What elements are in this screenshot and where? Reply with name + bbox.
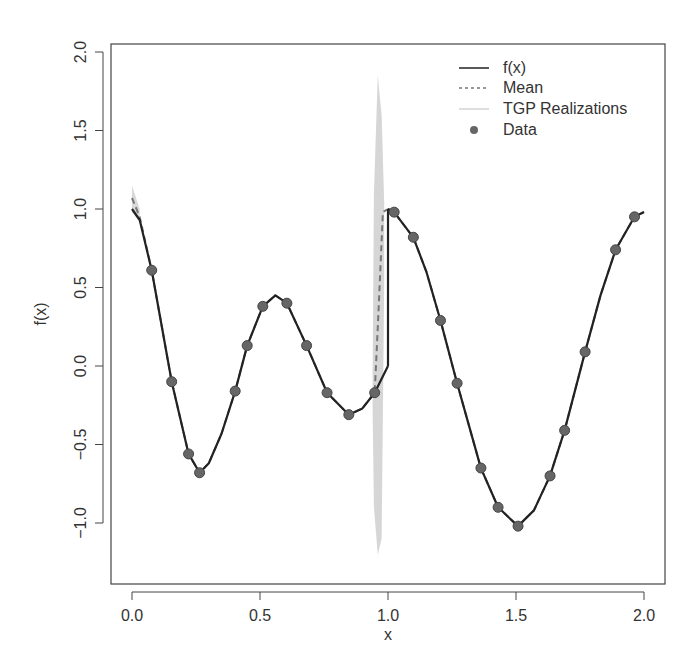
data-point: [452, 378, 462, 388]
data-point: [344, 410, 354, 420]
legend-label: TGP Realizations: [503, 100, 627, 117]
x-tick-label: 0.5: [249, 607, 271, 624]
x-axis-title: x: [384, 626, 392, 643]
chart-background: [0, 0, 695, 647]
x-tick-label: 1.0: [377, 607, 399, 624]
data-point: [435, 315, 445, 325]
data-point: [408, 232, 418, 242]
data-point: [545, 471, 555, 481]
data-point: [242, 341, 252, 351]
data-point: [476, 463, 486, 473]
data-point: [560, 425, 570, 435]
data-point: [493, 502, 503, 512]
data-point: [258, 301, 268, 311]
y-tick-label: 0.0: [72, 355, 89, 377]
data-point: [184, 449, 194, 459]
legend-label: f(x): [503, 59, 526, 76]
data-point: [230, 386, 240, 396]
data-point: [147, 265, 157, 275]
data-point: [302, 341, 312, 351]
tgp-chart: 0.00.51.01.52.0 −1.0−0.50.00.51.01.52.0 …: [0, 0, 695, 647]
y-tick-label: 2.0: [72, 41, 89, 63]
y-tick-label: −0.5: [72, 429, 89, 461]
data-point: [611, 245, 621, 255]
data-point: [322, 388, 332, 398]
data-point: [282, 298, 292, 308]
data-point: [370, 388, 380, 398]
data-point: [630, 212, 640, 222]
legend-label: Mean: [503, 79, 543, 96]
legend-swatch-data: [470, 126, 478, 134]
y-tick-label: 1.5: [72, 119, 89, 141]
data-point: [195, 468, 205, 478]
x-tick-label: 2.0: [633, 607, 655, 624]
y-tick-label: 0.5: [72, 276, 89, 298]
y-axis-title: f(x): [32, 302, 49, 325]
data-point: [389, 207, 399, 217]
data-point: [580, 347, 590, 357]
data-point: [513, 521, 523, 531]
y-tick-label: 1.0: [72, 198, 89, 220]
x-tick-label: 0.0: [121, 607, 143, 624]
x-tick-label: 1.5: [505, 607, 527, 624]
data-point: [167, 377, 177, 387]
y-tick-label: −1.0: [72, 507, 89, 539]
legend-label: Data: [503, 121, 537, 138]
